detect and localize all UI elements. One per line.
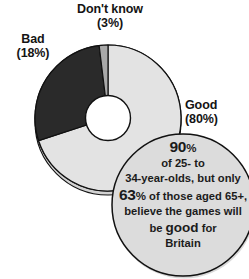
donut-center-hole — [86, 96, 131, 141]
callout-text-block: 90% of 25- to 34-year-olds, but only 63%… — [113, 139, 249, 253]
pie-label-bad-percent: (18%) — [2, 46, 64, 60]
callout-line-5: believe the games will — [113, 206, 249, 217]
callout-stat-63: 63 — [119, 186, 136, 203]
pie-label-dont-know: Don't know (3%) — [48, 2, 172, 30]
pie-label-bad: Bad (18%) — [2, 32, 64, 60]
callout-line-3: 34-year-olds, but only — [113, 173, 249, 184]
pie-label-dont-know-percent: (3%) — [48, 16, 172, 30]
callout-stat-90: 90 — [169, 138, 186, 155]
pie-label-bad-name: Bad — [2, 32, 64, 46]
callout-line-4: 63% of those aged 65+, — [113, 187, 249, 203]
callout-line-6-post: for — [199, 222, 217, 234]
callout-line-4-rest: of those aged 65+, — [146, 190, 247, 202]
pie-label-good-percent: (80%) — [185, 112, 245, 126]
callout-line-6-pre: be — [149, 222, 165, 234]
pie-label-dont-know-name: Don't know — [48, 2, 172, 16]
callout-line-7: Britain — [113, 238, 249, 249]
infographic-donut-chart: Don't know (3%) Bad (18%) Good (80%) 90%… — [0, 0, 249, 279]
callout-line-1: 90% — [113, 139, 249, 155]
callout-line-2: of 25- to — [113, 158, 249, 169]
pie-label-good: Good (80%) — [185, 98, 245, 126]
pie-label-good-name: Good — [185, 98, 245, 112]
callout-stat-63-percent-sign: % — [136, 190, 146, 202]
callout-line-6: be good for — [113, 221, 249, 235]
callout-stat-90-percent-sign: % — [186, 142, 196, 154]
callout-emphasis-good: good — [166, 220, 199, 235]
